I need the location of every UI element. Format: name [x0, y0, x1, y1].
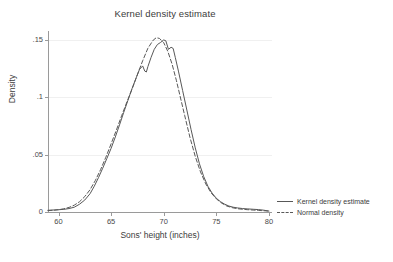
y-axis-title: Density	[7, 49, 17, 129]
x-axis-title: Sons' height (inches)	[48, 230, 272, 240]
y-tick-label: .1	[20, 92, 43, 101]
y-axis-line	[48, 31, 49, 213]
y-tick-label: 0	[20, 207, 43, 216]
x-tick-mark	[59, 213, 60, 216]
legend-item[interactable]: Kernel density estimate	[277, 196, 391, 207]
x-tick-label: 65	[99, 217, 123, 226]
legend-item-label: Kernel density estimate	[297, 198, 370, 205]
y-tick-label: .05	[20, 150, 43, 159]
chart-legend: Kernel density estimateNormal density	[277, 196, 391, 218]
y-tick-label: .15	[20, 35, 43, 44]
x-tick-label: 80	[257, 217, 281, 226]
gridline	[49, 40, 272, 41]
x-tick-mark	[269, 213, 270, 216]
kernel-density-curve	[48, 40, 269, 211]
kernel-density-chart: Kernel density estimate Density Sons' he…	[0, 0, 393, 262]
gridline	[49, 97, 272, 98]
normal-density-curve	[48, 38, 269, 211]
x-tick-label: 70	[152, 217, 176, 226]
legend-item[interactable]: Normal density	[277, 207, 391, 218]
solid-line-swatch-icon	[277, 198, 293, 206]
x-tick-label: 60	[47, 217, 71, 226]
legend-item-label: Normal density	[297, 209, 344, 216]
x-axis-line	[48, 212, 272, 213]
x-tick-mark	[111, 213, 112, 216]
gridline	[49, 155, 272, 156]
x-tick-label: 75	[204, 217, 228, 226]
dashed-line-swatch-icon	[277, 209, 293, 217]
x-tick-mark	[164, 213, 165, 216]
chart-title: Kernel density estimate	[0, 8, 330, 19]
x-tick-mark	[216, 213, 217, 216]
